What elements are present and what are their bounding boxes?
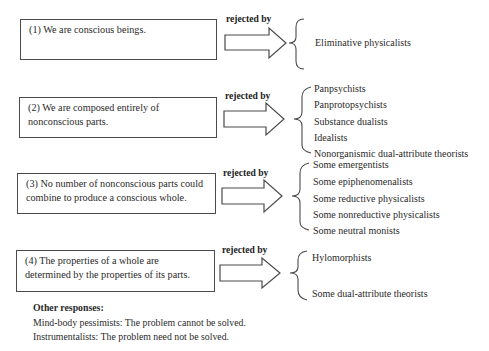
other-response-2: Instrumentalists: The problem need not b… <box>33 330 246 345</box>
claim-2-box: (2) We are composed entirely of nonconsc… <box>19 97 217 138</box>
claim-2-text: (2) We are composed entirely of nonconsc… <box>28 102 159 127</box>
responder-4-2: Some dual-attribute theorists <box>312 288 428 299</box>
responder-2-3: Substance dualists <box>314 116 388 127</box>
arrow-3-icon <box>222 180 282 212</box>
other-response-1: Mind-body pessimists: The problem cannot… <box>33 316 246 331</box>
rejected-by-label-3: rejected by <box>223 167 268 178</box>
responder-1-1: Eliminative physicalists <box>315 37 411 48</box>
brace-3-icon <box>292 163 309 230</box>
arrow-2-icon <box>224 103 284 135</box>
claim-4-text: (4) The properties of a whole are determ… <box>25 255 190 280</box>
responder-4-1: Hylomorphists <box>312 252 371 263</box>
claim-4-box: (4) The properties of a whole are determ… <box>16 250 215 292</box>
responder-2-2: Panprotopsychists <box>314 99 387 110</box>
responder-3-4: Some nonreductive physicalists <box>313 209 440 220</box>
rejected-by-label-1: rejected by <box>226 13 271 24</box>
claim-1-text: (1) We are conscious beings. <box>29 24 146 35</box>
responder-2-1: Panpsychists <box>314 83 366 94</box>
brace-1-icon <box>289 19 304 69</box>
other-responses-heading: Other responses: <box>33 301 246 316</box>
responder-3-1: Some emergentists <box>313 159 389 170</box>
brace-4-icon <box>290 251 307 300</box>
rejected-by-label-2: rejected by <box>225 90 270 101</box>
claim-1-box: (1) We are conscious beings. <box>20 19 217 60</box>
claim-3-box: (3) No number of nonconscious parts coul… <box>17 173 216 214</box>
responder-2-5: Nonorganismic dual-attribute theorists <box>314 148 468 159</box>
brace-2-icon <box>294 87 311 153</box>
responder-3-3: Some reductive physicalists <box>313 193 425 204</box>
claim-3-text: (3) No number of nonconscious parts coul… <box>26 178 203 203</box>
responder-2-4: Idealists <box>314 132 347 143</box>
arrow-1-icon <box>225 28 286 58</box>
other-responses: Other responses: Mind-body pessimists: T… <box>33 301 246 345</box>
arrow-4-icon <box>220 258 280 288</box>
rejected-by-label-4: rejected by <box>222 244 267 255</box>
responder-3-2: Some epiphenomenalists <box>313 176 413 187</box>
responder-3-5: Some neutral monists <box>313 225 400 236</box>
